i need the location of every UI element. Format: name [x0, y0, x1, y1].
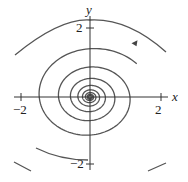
- x-axis-label: x: [171, 89, 178, 104]
- x-tick-label-neg2: −2: [13, 102, 27, 117]
- phase-portrait-chart: y x −2 2 2 −2: [0, 0, 188, 182]
- direction-arrow-icon: [132, 40, 138, 46]
- spiral-curve: [39, 49, 137, 136]
- x-tick-label-2: 2: [155, 102, 162, 117]
- y-tick-label-2: 2: [76, 20, 83, 35]
- y-tick-label-neg2: −2: [70, 156, 84, 171]
- y-axis-label: y: [84, 2, 92, 17]
